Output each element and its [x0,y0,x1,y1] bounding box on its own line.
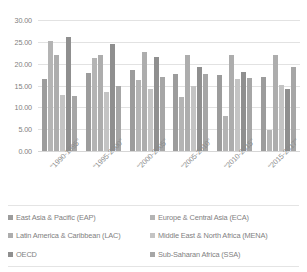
bar [197,67,202,151]
y-axis-tick-label: 15.00 [15,81,33,90]
legend-item-label: Sub-Saharan Africa (SSA) [158,250,240,259]
chart-legend: East Asia & Pacific (EAP)Europe & Centra… [8,208,299,264]
bar-group [38,20,82,151]
x-axis-tick-slot: "1990-1995" [38,151,82,203]
bar [261,77,266,151]
legend-item[interactable]: OECD [8,250,150,259]
legend-swatch-icon [150,252,155,257]
legend-swatch-icon [150,233,155,238]
x-axis-tick-slot: "2000-2005" [125,151,169,203]
bar [130,70,135,151]
y-axis-tick-label: 20.00 [15,59,33,68]
legend-item[interactable]: Latin America & Caribbean (LAC) [8,231,150,240]
legend-item-label: East Asia & Pacific (EAP) [16,213,96,222]
bar [142,52,147,151]
bar [154,57,159,151]
legend-item[interactable]: Europe & Central Asia (ECA) [150,213,299,222]
bar [98,55,103,151]
y-axis-tick-label: 10.00 [15,103,33,112]
legend-item[interactable]: Sub-Saharan Africa (SSA) [150,250,299,259]
bar [241,72,246,151]
bar [48,41,53,151]
y-axis-tick-label: 0.00 [18,147,32,156]
legend-item-label: Middle East & North Africa (MENA) [158,231,268,240]
bar [110,44,115,151]
bar [42,79,47,151]
y-axis-tick-label: 30.00 [15,16,33,25]
bar [104,92,109,151]
x-axis-tick-slot: "2010-2015" [213,151,257,203]
legend-swatch-icon [150,215,155,220]
bar [60,95,65,151]
bar [86,73,91,151]
bar [136,80,141,151]
y-axis-tick-label: 25.00 [15,37,33,46]
x-axis-tick-labels: "1990-1995""1995-2000""2000-2005""2005-2… [38,151,300,203]
legend-swatch-icon [8,233,13,238]
x-axis-tick-slot: "1995-2000" [82,151,126,203]
bar-group [82,20,126,151]
bar-group [169,20,213,151]
x-axis-tick-slot: "2005-2010" [169,151,213,203]
bar [267,130,272,151]
bar [173,74,178,151]
bar [279,85,284,151]
bar [229,55,234,151]
bar-groups [38,20,300,151]
y-axis-tick-labels: 30.0025.0020.0015.0010.005.000.00 [0,20,36,151]
legend-swatch-icon [8,215,13,220]
legend-divider-top [8,205,299,206]
legend-item-label: Europe & Central Asia (ECA) [158,213,249,222]
bar-group [125,20,169,151]
bar-group [256,20,300,151]
bar-chart: 30.0025.0020.0015.0010.005.000.00 "1990-… [0,0,307,272]
bar [185,55,190,152]
bar [148,89,153,151]
bar [92,58,97,151]
bar [273,55,278,151]
bar [235,79,240,151]
bar [66,37,71,151]
plot-area [38,20,300,151]
legend-item-label: Latin America & Caribbean (LAC) [16,231,121,240]
y-axis-tick-label: 5.00 [18,125,32,134]
legend-item[interactable]: Middle East & North Africa (MENA) [150,231,299,240]
bar [191,86,196,151]
bar-group [213,20,257,151]
legend-divider-bottom [8,266,299,267]
x-axis-tick-slot: "2015-2017" [256,151,300,203]
legend-item-label: OECD [16,250,37,259]
bar [223,116,228,151]
bar [217,75,222,151]
legend-swatch-icon [8,252,13,257]
bar [54,55,59,151]
legend-item[interactable]: East Asia & Pacific (EAP) [8,213,150,222]
bar [179,97,184,151]
